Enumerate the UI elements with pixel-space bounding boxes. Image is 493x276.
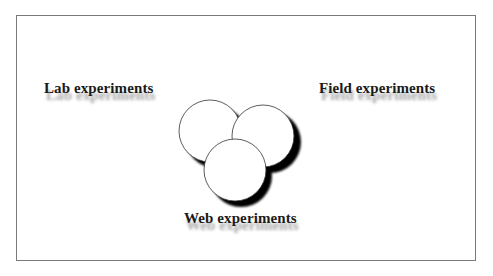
lab-experiments-label: Lab experiments [44, 80, 153, 97]
venn-diagram [0, 0, 493, 276]
field-experiments-label: Field experiments [319, 80, 435, 97]
web-circle [204, 139, 266, 201]
web-experiments-label: Web experiments [184, 210, 297, 227]
